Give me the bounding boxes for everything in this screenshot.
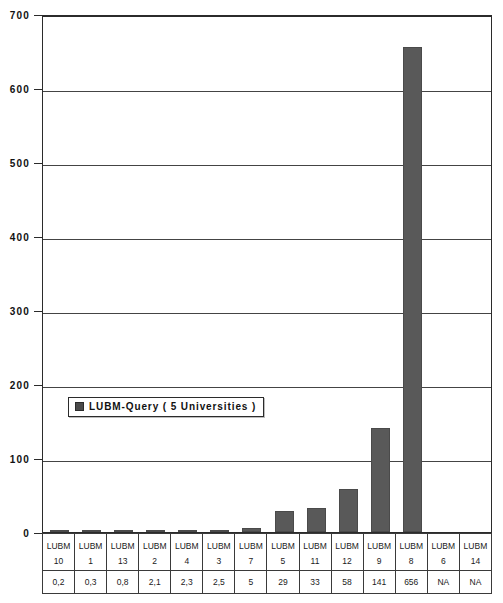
table-cell-category: LUBM7 xyxy=(235,534,267,571)
bar-slot xyxy=(75,17,107,532)
category-name: LUBM xyxy=(43,538,74,551)
table-cell-category: LUBM14 xyxy=(459,534,491,571)
bar xyxy=(82,530,101,532)
table-cell-value: 0,3 xyxy=(75,571,107,594)
bar-slot xyxy=(43,17,75,532)
table-cell-category: LUBM5 xyxy=(267,534,299,571)
bar-slot xyxy=(332,17,364,532)
table-cell-value: 58 xyxy=(331,571,363,594)
category-name: LUBM xyxy=(267,538,298,551)
bar xyxy=(307,508,326,532)
bar xyxy=(114,530,133,532)
category-name: LUBM xyxy=(460,538,491,551)
category-name: LUBM xyxy=(203,538,234,551)
bar-slot xyxy=(204,17,236,532)
y-axis-tick-label: 400 xyxy=(10,232,30,243)
table-cell-value: 2,3 xyxy=(171,571,203,594)
table-cell-category: LUBM4 xyxy=(171,534,203,571)
bar-slot xyxy=(461,17,493,532)
y-axis-tick-label: 500 xyxy=(10,158,30,169)
table-row-categories: LUBM10LUBM1LUBM13LUBM2LUBM4LUBM3LUBM7LUB… xyxy=(43,534,492,571)
category-number: 4 xyxy=(171,551,202,566)
category-number: 8 xyxy=(396,551,427,566)
table-cell-category: LUBM3 xyxy=(203,534,235,571)
table-cell-value: 0,2 xyxy=(43,571,75,594)
table-cell-value: 33 xyxy=(299,571,331,594)
table-cell-value: NA xyxy=(427,571,459,594)
bar xyxy=(403,47,422,532)
bar xyxy=(371,428,390,532)
bar xyxy=(275,511,294,532)
category-name: LUBM xyxy=(396,538,427,551)
category-number: 14 xyxy=(460,551,491,566)
table-cell-category: LUBM8 xyxy=(395,534,427,571)
bar-slot xyxy=(107,17,139,532)
y-axis-tick-mark xyxy=(34,385,42,386)
category-number: 12 xyxy=(332,551,363,566)
table-row-values: 0,20,30,82,12,32,55293358141656NANA xyxy=(43,571,492,594)
table-cell-category: LUBM2 xyxy=(139,534,171,571)
table-cell-value: 0,8 xyxy=(107,571,139,594)
category-name: LUBM xyxy=(139,538,170,551)
chart-legend: LUBM-Query ( 5 Universities ) xyxy=(68,397,264,417)
bar-slot xyxy=(172,17,204,532)
category-number: 6 xyxy=(428,551,459,566)
table-cell-value: 29 xyxy=(267,571,299,594)
y-axis-tick-mark xyxy=(34,237,42,238)
bar-slot xyxy=(236,17,268,532)
y-axis-tick-label: 0 xyxy=(23,528,30,539)
category-number: 2 xyxy=(139,551,170,566)
data-table: LUBM10LUBM1LUBM13LUBM2LUBM4LUBM3LUBM7LUB… xyxy=(42,533,492,594)
table-cell-category: LUBM11 xyxy=(299,534,331,571)
table-cell-category: LUBM12 xyxy=(331,534,363,571)
category-number: 11 xyxy=(300,551,331,566)
table-cell-value: 2,1 xyxy=(139,571,171,594)
category-name: LUBM xyxy=(107,538,138,551)
y-axis-tick-mark xyxy=(34,311,42,312)
bar-slot xyxy=(300,17,332,532)
category-name: LUBM xyxy=(235,538,266,551)
bar-slot xyxy=(429,17,461,532)
category-number: 7 xyxy=(235,551,266,566)
bars-layer xyxy=(43,17,491,532)
category-number: 5 xyxy=(267,551,298,566)
y-axis: 0100200300400500600700 xyxy=(0,0,40,603)
y-axis-tick-mark xyxy=(34,89,42,90)
table-cell-value: NA xyxy=(459,571,491,594)
bar-slot xyxy=(397,17,429,532)
plot-area xyxy=(42,15,492,533)
category-number: 3 xyxy=(203,551,234,566)
table-cell-category: LUBM6 xyxy=(427,534,459,571)
y-axis-tick-mark xyxy=(34,533,42,534)
category-name: LUBM xyxy=(300,538,331,551)
bar-slot xyxy=(268,17,300,532)
bar-chart: 0100200300400500600700 LUBM-Query ( 5 Un… xyxy=(0,0,503,603)
y-axis-tick-label: 700 xyxy=(10,10,30,21)
table-cell-value: 656 xyxy=(395,571,427,594)
bar xyxy=(242,528,261,532)
bar-slot xyxy=(364,17,396,532)
y-axis-tick-label: 200 xyxy=(10,380,30,391)
category-number: 1 xyxy=(75,551,106,566)
table-cell-category: LUBM10 xyxy=(43,534,75,571)
bar-slot xyxy=(139,17,171,532)
bar xyxy=(146,530,165,532)
table-cell-category: LUBM9 xyxy=(363,534,395,571)
legend-label: LUBM-Query ( 5 Universities ) xyxy=(89,401,256,412)
category-name: LUBM xyxy=(332,538,363,551)
table-cell-category: LUBM13 xyxy=(107,534,139,571)
table-cell-category: LUBM1 xyxy=(75,534,107,571)
category-name: LUBM xyxy=(364,538,395,551)
y-axis-tick-label: 600 xyxy=(10,84,30,95)
legend-swatch-icon xyxy=(75,402,84,411)
table-cell-value: 5 xyxy=(235,571,267,594)
y-axis-tick-mark xyxy=(34,163,42,164)
y-axis-tick-label: 300 xyxy=(10,306,30,317)
category-name: LUBM xyxy=(171,538,202,551)
category-number: 9 xyxy=(364,551,395,566)
table-cell-value: 2,5 xyxy=(203,571,235,594)
category-name: LUBM xyxy=(428,538,459,551)
bar xyxy=(178,530,197,532)
y-axis-tick-mark xyxy=(34,459,42,460)
category-name: LUBM xyxy=(75,538,106,551)
